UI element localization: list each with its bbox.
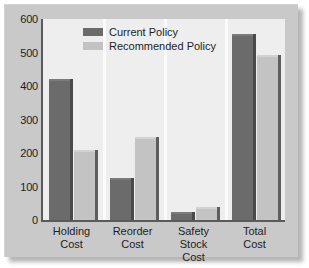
x-axis-label-line: Cost bbox=[102, 238, 163, 251]
bar bbox=[171, 212, 195, 220]
bar bbox=[196, 207, 220, 220]
y-axis-tick-label: 100 bbox=[8, 181, 38, 193]
bar bbox=[232, 34, 256, 220]
y-axis-tick-label: 500 bbox=[8, 47, 38, 59]
x-axis-label-line: Reorder bbox=[102, 225, 163, 238]
bar bbox=[257, 55, 281, 220]
legend-label: Recommended Policy bbox=[109, 40, 216, 52]
y-axis-tick-label: 300 bbox=[8, 114, 38, 126]
bar bbox=[110, 178, 134, 220]
legend-item: Current Policy bbox=[83, 25, 216, 38]
y-axis-labels: 0100200300400500600 bbox=[5, 19, 38, 220]
bar-group bbox=[226, 19, 287, 220]
x-axis-category-label: TotalCost bbox=[224, 225, 285, 251]
x-axis-label-line: Cost bbox=[224, 238, 285, 251]
x-axis-label-line: Cost bbox=[41, 238, 102, 251]
y-axis-tick-label: 0 bbox=[8, 214, 38, 226]
x-axis-label-line: Safety Stock bbox=[163, 225, 224, 251]
legend-item: Recommended Policy bbox=[83, 39, 216, 52]
y-axis-tick-label: 600 bbox=[8, 13, 38, 25]
bar bbox=[74, 150, 98, 220]
chart-legend: Current PolicyRecommended Policy bbox=[83, 25, 216, 53]
x-axis-labels: HoldingCostReorderCostSafety StockCostTo… bbox=[41, 225, 285, 259]
legend-swatch bbox=[83, 42, 103, 50]
y-axis-tick-label: 200 bbox=[8, 147, 38, 159]
y-axis-tick-label: 400 bbox=[8, 80, 38, 92]
x-axis-category-label: Safety StockCost bbox=[163, 225, 224, 264]
legend-swatch bbox=[83, 28, 103, 36]
legend-label: Current Policy bbox=[109, 26, 178, 38]
x-axis-label-line: Cost bbox=[163, 251, 224, 264]
x-axis-category-label: ReorderCost bbox=[102, 225, 163, 251]
x-axis-category-label: HoldingCost bbox=[41, 225, 102, 251]
bar bbox=[135, 137, 159, 220]
bar bbox=[49, 79, 73, 220]
chart-panel: 0100200300400500600 HoldingCostReorderCo… bbox=[4, 4, 298, 257]
x-axis-label-line: Total bbox=[224, 225, 285, 238]
x-axis-label-line: Holding bbox=[41, 225, 102, 238]
